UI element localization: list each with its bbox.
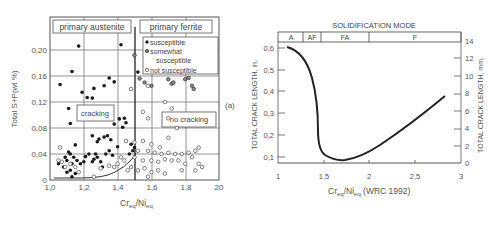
svg-text:0,16: 0,16 xyxy=(31,72,47,81)
data-point-open xyxy=(156,169,160,173)
data-point-filled xyxy=(102,135,106,139)
data-point-filled xyxy=(70,70,74,74)
data-point-open xyxy=(150,170,154,174)
data-point-open xyxy=(187,151,191,155)
data-point-filled xyxy=(91,96,95,100)
data-point-open xyxy=(197,162,201,166)
svg-text:20: 20 xyxy=(215,183,224,192)
legend-marker-somewhat xyxy=(145,49,148,52)
data-point-open xyxy=(136,149,140,153)
data-point-filled xyxy=(92,87,96,91)
data-point-open xyxy=(123,159,127,163)
svg-text:0,04: 0,04 xyxy=(31,150,47,159)
data-point-filled xyxy=(91,134,95,138)
svg-text:0,12: 0,12 xyxy=(31,98,47,107)
data-point-open xyxy=(146,149,150,153)
svg-text:0,5: 0,5 xyxy=(264,66,274,75)
data-point-filled xyxy=(69,169,73,173)
data-point-open xyxy=(167,136,171,140)
data-point-half xyxy=(143,81,147,85)
region-label-cracking: cracking xyxy=(81,109,109,118)
data-point-open xyxy=(112,165,116,169)
data-point-open xyxy=(175,126,179,130)
data-point-open xyxy=(143,167,147,171)
data-point-filled xyxy=(119,43,123,47)
data-point-filled xyxy=(74,143,78,147)
data-point-open xyxy=(153,151,157,155)
data-point-open xyxy=(163,100,167,104)
svg-text:2: 2 xyxy=(367,172,371,181)
svg-text:2: 2 xyxy=(465,142,469,151)
data-point-open xyxy=(126,169,130,173)
legend-label-somewhat: somewhat xyxy=(150,48,182,55)
data-point-open xyxy=(107,164,111,168)
data-point-open xyxy=(183,162,187,166)
data-point-open xyxy=(150,159,154,163)
data-point-filled xyxy=(96,156,100,160)
data-point-open xyxy=(163,157,167,161)
svg-text:12: 12 xyxy=(465,54,473,63)
data-point-open xyxy=(116,162,120,166)
mode-fa: FA xyxy=(341,34,350,41)
data-point-open xyxy=(74,165,78,169)
data-point-filled xyxy=(92,157,96,161)
svg-text:0,6: 0,6 xyxy=(264,44,274,53)
region-label-no-cracking: no cracking xyxy=(170,115,208,124)
data-point-open xyxy=(160,152,164,156)
data-point-filled xyxy=(111,154,115,158)
data-point-open xyxy=(92,175,96,179)
data-point-filled xyxy=(97,137,101,141)
data-point-open xyxy=(156,160,160,164)
solidification-mode-title: SOLIDIFICATION MODE xyxy=(332,21,416,30)
data-point-open xyxy=(180,152,184,156)
data-point-filled xyxy=(128,152,132,156)
region-label-ferrite: primary ferrite xyxy=(150,22,203,32)
left-x-ticks: 1,0 1,2 1,4 1,6 1,8 20 xyxy=(44,183,224,192)
data-point-open xyxy=(167,117,171,121)
svg-text:0,20: 0,20 xyxy=(31,46,47,55)
right-y-axis-label: TOTAL CRACK LENGTH, in, xyxy=(251,60,258,150)
data-point-filled xyxy=(112,122,116,126)
right-x-ticks: 1 1,5 2 2,5 3 xyxy=(276,172,463,181)
data-point-open xyxy=(150,143,154,147)
data-point-half xyxy=(167,78,171,82)
data-point-filled xyxy=(104,152,108,156)
legend-marker-not-susceptible xyxy=(145,68,148,71)
data-point-filled xyxy=(84,155,88,159)
data-point-open xyxy=(58,146,62,150)
data-point-filled xyxy=(99,160,103,164)
svg-text:1,2: 1,2 xyxy=(78,183,90,192)
data-point-filled xyxy=(112,80,116,84)
data-point-open xyxy=(133,141,137,145)
svg-text:4: 4 xyxy=(465,124,469,133)
svg-text:1: 1 xyxy=(276,172,280,181)
data-point-open xyxy=(124,139,128,143)
legend-label-susceptible: susceptible xyxy=(150,39,185,47)
svg-text:1,0: 1,0 xyxy=(44,183,56,192)
data-point-open xyxy=(77,170,81,174)
data-point-open xyxy=(194,149,198,153)
data-point-filled xyxy=(85,96,89,100)
data-point-filled xyxy=(79,162,83,166)
mode-af: AF xyxy=(308,34,317,41)
right-x-axis-label: Creq/Nieq (WRC 1992) xyxy=(328,186,411,197)
data-point-open xyxy=(119,156,123,160)
data-point-half xyxy=(150,84,154,88)
data-point-open xyxy=(146,117,150,121)
data-point-open xyxy=(141,139,145,143)
data-point-open xyxy=(197,146,201,150)
mode-f: F xyxy=(413,34,417,41)
data-point-filled xyxy=(69,122,73,126)
left-y-ticks: 0 0,04 0,08 0,12 0,16 0,20 xyxy=(31,46,47,185)
svg-text:8: 8 xyxy=(465,89,469,98)
data-point-half xyxy=(172,81,176,85)
left-x-axis-label: Creq/Nieq xyxy=(120,198,153,209)
data-point-open xyxy=(170,107,174,111)
data-point-filled xyxy=(102,84,106,88)
data-point-open xyxy=(177,159,181,163)
data-point-filled xyxy=(124,121,128,125)
data-point-filled xyxy=(69,152,73,156)
data-point-half xyxy=(133,53,137,57)
data-point-half xyxy=(183,78,187,82)
data-point-filled xyxy=(67,107,71,111)
